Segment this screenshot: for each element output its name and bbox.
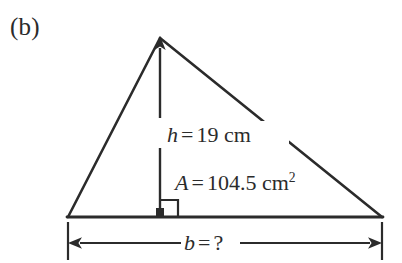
base-variable: b xyxy=(184,230,196,255)
height-label: h=19 cm xyxy=(167,124,251,146)
base-value: ? xyxy=(213,230,223,255)
height-variable: h xyxy=(167,122,179,147)
geometry-figure: (b) h=19 cm A=104.5 cm2 b=? xyxy=(0,0,402,263)
height-unit: cm xyxy=(224,122,251,147)
area-unit: cm xyxy=(262,170,289,195)
base-label: b=? xyxy=(184,232,223,254)
part-label: (b) xyxy=(10,14,40,39)
area-label: A=104.5 cm2 xyxy=(175,172,296,194)
area-variable: A xyxy=(175,170,189,195)
area-unit-exponent: 2 xyxy=(289,170,296,185)
base-equals: = xyxy=(196,230,213,255)
area-value: 104.5 xyxy=(207,170,257,195)
area-equals: = xyxy=(189,170,206,195)
height-value: 19 xyxy=(196,122,218,147)
height-equals: = xyxy=(179,122,196,147)
